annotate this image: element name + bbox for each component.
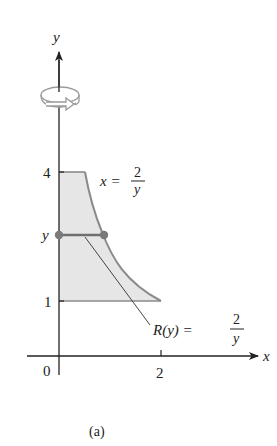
curve-equation-lhs: x =: [99, 173, 121, 189]
y-tick-label-4: 4: [43, 165, 51, 181]
x-tick-label-2: 2: [156, 365, 164, 381]
x-axis-label: x: [262, 348, 270, 364]
radius-equation-lhs: R(y) =: [152, 322, 193, 339]
curve-numerator: 2: [134, 165, 141, 180]
curve-denominator: y: [132, 182, 141, 197]
radius-numerator: 2: [233, 312, 240, 327]
origin-label: 0: [43, 363, 51, 379]
volume-of-revolution-diagram: y x 0 2 4 1 y x = 2 y R(y) = 2 y (a): [0, 0, 277, 446]
figure-caption: (a): [89, 424, 105, 440]
shaded-region: [59, 172, 161, 301]
y-tick-label-1: 1: [44, 294, 52, 310]
left-endpoint-dot: [55, 231, 63, 239]
radius-denominator: y: [231, 331, 240, 346]
right-endpoint-dot: [100, 231, 108, 239]
y-level-label: y: [40, 227, 49, 243]
rotation-arrow-icon: [41, 87, 79, 110]
y-axis-label: y: [51, 29, 60, 45]
